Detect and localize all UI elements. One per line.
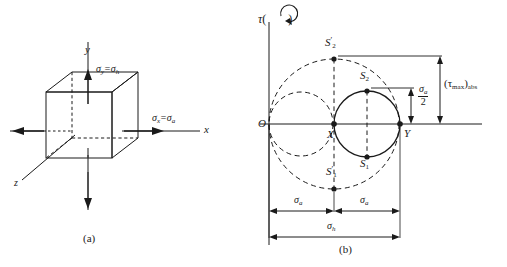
tau-paren-close: ) bbox=[288, 12, 292, 26]
dim-label-sigma-h: σh bbox=[327, 221, 335, 233]
sigma-a-half-denominator: 2 bbox=[418, 97, 428, 108]
axis-label-z: z bbox=[14, 178, 18, 188]
tau-paren-open: ( bbox=[262, 12, 266, 26]
caption-b: (b) bbox=[339, 244, 352, 255]
point-label-s1-prime: S′1 bbox=[326, 166, 337, 179]
s2-prime-sub: 2 bbox=[332, 42, 336, 50]
sigma-y-label: σy=σh bbox=[96, 64, 119, 76]
cube-hidden-edges bbox=[46, 72, 138, 158]
s2-sub: 2 bbox=[366, 75, 370, 83]
sigma-h-dim-arrow-left bbox=[269, 234, 277, 240]
dim-right-sub: a bbox=[365, 199, 369, 207]
s1-prime-sub: 1 bbox=[333, 171, 337, 179]
dim-total-sub: h bbox=[332, 225, 336, 233]
dim-left-sub: a bbox=[299, 199, 303, 207]
point-label-s2-prime: S′2 bbox=[325, 37, 336, 50]
sigma-h-dim-arrow-right bbox=[392, 234, 400, 240]
point-s2 bbox=[364, 88, 369, 93]
sigma-x-arrow-right-head bbox=[152, 127, 164, 135]
caption-a: (a) bbox=[83, 233, 95, 244]
point-y bbox=[397, 121, 403, 127]
dim-label-sigma-a-right: σa bbox=[360, 195, 368, 207]
sigma-y-arrow-down-head bbox=[84, 198, 92, 209]
figure-container: y σy=σh x σx=σa z (a) bbox=[0, 0, 507, 267]
sigma-x-arrow-left-head bbox=[12, 127, 24, 135]
axis-label-y: y bbox=[85, 44, 90, 55]
tau-max-open: (τ bbox=[444, 77, 452, 89]
sigma-a-half-dim-arrow-bottom bbox=[408, 116, 414, 124]
tau-max-sub: max bbox=[452, 83, 464, 91]
sigma-y-equals: =σ bbox=[104, 63, 116, 74]
sigma-a-left-dim-arrow-left bbox=[269, 208, 277, 214]
cube-front-face bbox=[46, 92, 112, 158]
tau-axis-label: τ() bbox=[258, 13, 292, 25]
point-label-y: Y bbox=[404, 128, 410, 139]
panel-b-diagram bbox=[254, 0, 507, 267]
cube-right-face bbox=[112, 72, 138, 158]
sigma-a-right-dim-arrow-right bbox=[392, 208, 400, 214]
sigma-a-half-numerator: σa bbox=[418, 84, 428, 97]
tau-max-abs-label: (τmax)abs bbox=[444, 78, 477, 91]
s1-sub: 1 bbox=[366, 163, 370, 171]
tau-max-dim-arrow-top bbox=[437, 56, 443, 64]
sigma-a-half-dim-arrow-top bbox=[408, 88, 414, 96]
sigma-x-label: σx=σa bbox=[152, 113, 175, 125]
point-label-s1: S1 bbox=[360, 158, 369, 171]
point-label-x: X bbox=[327, 129, 334, 140]
point-s1-prime bbox=[331, 186, 336, 191]
sigma-a-left-dim-arrow-right bbox=[326, 208, 334, 214]
tau-max-abs-sub: abs bbox=[468, 83, 477, 91]
dim-label-sigma-a-left: σa bbox=[294, 195, 302, 207]
sigma-x-equals: =σ bbox=[160, 112, 172, 123]
point-s2-prime bbox=[331, 56, 336, 61]
sigma-y-arrow-up-head bbox=[84, 69, 92, 80]
sigma-a-subscript: a bbox=[172, 117, 176, 125]
sigma-a-right-dim-arrow-left bbox=[334, 208, 342, 214]
axis-label-x: x bbox=[204, 124, 209, 135]
panel-a-diagram bbox=[0, 0, 254, 267]
point-x bbox=[331, 121, 337, 127]
point-label-s2: S2 bbox=[360, 70, 369, 83]
origin-label-o: O bbox=[258, 118, 266, 129]
sigma-a-half-label: σa 2 bbox=[418, 84, 428, 107]
sigma-h-subscript: h bbox=[116, 68, 120, 76]
tau-max-dim-arrow-bottom bbox=[437, 116, 443, 124]
